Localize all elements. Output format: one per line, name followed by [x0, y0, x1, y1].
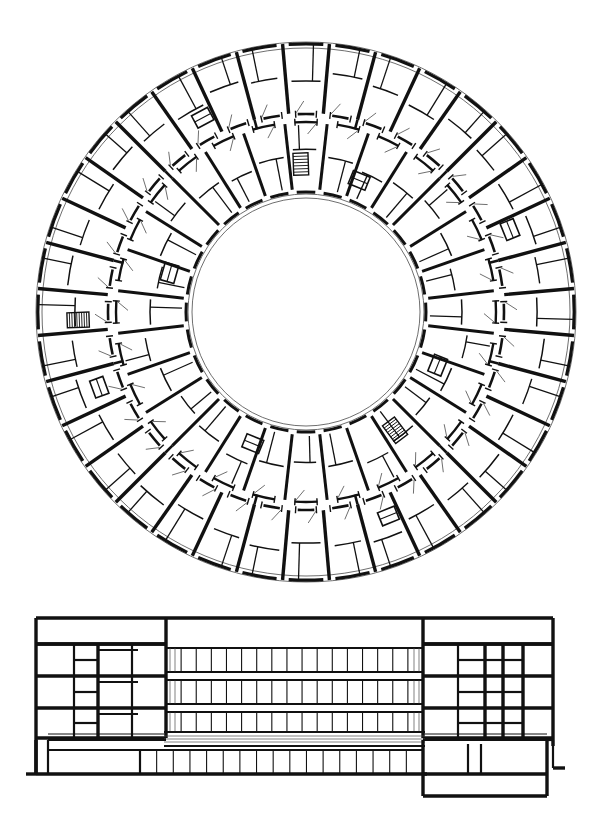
door-jamb-tick [330, 505, 331, 512]
floor-plan-figure [0, 0, 589, 596]
door-jamb-tick [106, 287, 113, 288]
stair-tread [69, 313, 70, 328]
stair-tread [293, 156, 308, 157]
stair-tread [82, 312, 83, 327]
inner-room-partition-arc [150, 299, 151, 324]
door-jamb-tick [330, 112, 331, 119]
stair-tread [86, 312, 87, 327]
stair-tread [294, 172, 309, 173]
stair-tread [72, 313, 73, 328]
stair-tread [84, 312, 85, 327]
stair-tread [79, 312, 80, 327]
stair-tread [293, 159, 308, 160]
plan-background [0, 0, 589, 596]
stair-tread [293, 169, 308, 170]
floor-plan-svg [0, 0, 589, 596]
drawing-sheet [0, 0, 589, 818]
door-jamb-tick [281, 112, 282, 119]
stair-tread [293, 165, 308, 166]
stair-tread [77, 313, 78, 328]
stair-tread [74, 313, 75, 328]
perimeter-wall-segment [289, 44, 324, 45]
inner-room-partition-arc [461, 299, 462, 324]
elevation-figure [0, 596, 589, 818]
perimeter-wall-segment [38, 295, 39, 330]
elevation-svg [0, 596, 589, 818]
inner-room-stub-wall [309, 436, 310, 463]
inner-room-partition-arc [293, 149, 316, 150]
door-jamb-tick [106, 336, 113, 337]
door-jamb-tick [499, 287, 506, 288]
stair-tread [293, 162, 308, 163]
door-jamb-tick [281, 505, 282, 512]
perimeter-wall-segment [289, 580, 324, 581]
door-jamb-tick [499, 336, 506, 337]
perimeter-wall-segment [574, 295, 575, 330]
